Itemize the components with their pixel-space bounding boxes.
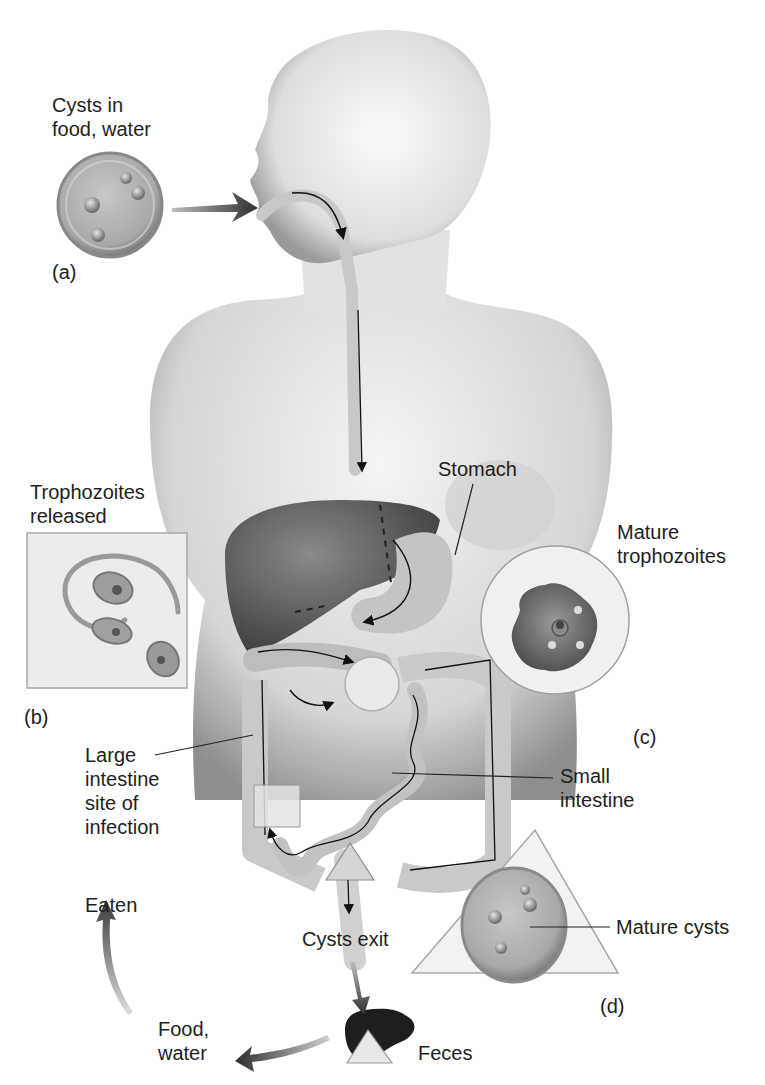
- panel-d-caption: Mature cysts: [616, 915, 729, 939]
- food-water-label: Food, water: [158, 1017, 209, 1065]
- panel-a-caption: Cysts in food, water: [52, 93, 151, 141]
- ingestion-arrow: [172, 192, 258, 222]
- cysts-exit-arrow: [350, 962, 370, 1015]
- panel-b-trophozoites-released: [27, 533, 187, 688]
- panel-c-tag: (c): [633, 725, 656, 749]
- eaten-label: Eaten: [85, 893, 137, 917]
- eaten-arrow: [96, 900, 133, 1015]
- panel-d-tag: (d): [600, 994, 624, 1018]
- panel-d-mature-cysts: [412, 830, 618, 982]
- small-intestine-label: Small intestine: [560, 764, 635, 812]
- food-water-arrow: [235, 1035, 330, 1072]
- stomach-label: Stomach: [438, 457, 517, 481]
- feces-label: Feces: [418, 1041, 472, 1065]
- panel-b-caption: Trophozoites released: [30, 480, 145, 528]
- infection-site-box: [254, 785, 300, 827]
- panel-c-mature-trophozoites: [481, 546, 629, 694]
- feces-illustration: [345, 1009, 414, 1063]
- panel-b-tag: (b): [24, 705, 48, 729]
- cysts-exit-label: Cysts exit: [302, 927, 389, 951]
- large-intestine-label: Large intestine site of infection: [85, 743, 160, 839]
- panel-a-cyst: [58, 153, 162, 257]
- panel-a-tag: (a): [52, 260, 76, 284]
- panel-c-caption: Mature trophozoites: [617, 520, 726, 568]
- small-intestine-highlight: [345, 657, 399, 711]
